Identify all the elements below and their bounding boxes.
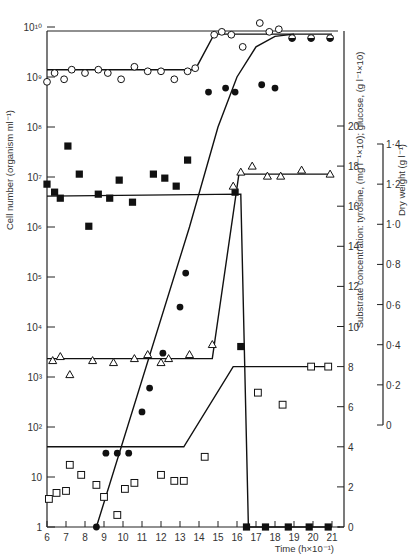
y-dry-weight-tick-label: 0·8 (386, 259, 401, 270)
x-tick-label: 6 (44, 532, 50, 543)
open-circle-point (239, 43, 246, 50)
y-substrate-tick-label: 2 (348, 482, 354, 493)
filled-square-point (95, 191, 102, 198)
filled-square-point (129, 199, 136, 206)
filled-circle-point (160, 350, 167, 357)
filled-square-point (57, 195, 64, 202)
filled-square-point (325, 523, 332, 530)
filled-circle-point (93, 524, 100, 531)
x-tick-label: 11 (137, 532, 148, 543)
y-left-tick-label: 1 (36, 522, 42, 533)
x-tick-label: 10 (117, 532, 129, 543)
y-dry-weight-axis-title: Dry weight (g l⁻¹) (396, 144, 407, 216)
open-triangle-point (89, 357, 97, 364)
y-left-tick-label: 10⁸ (27, 122, 42, 133)
open-circle-point (184, 68, 191, 75)
open-circle-point (61, 76, 68, 83)
y-left-tick-label: 10 (31, 472, 43, 483)
x-tick-label: 14 (193, 532, 205, 543)
y-dry-weight-tick-label: 0 (386, 420, 392, 431)
open-circle-point (95, 66, 102, 73)
filled-square-point (43, 181, 50, 188)
filled-circle-point (139, 409, 146, 416)
x-tick-label: 21 (326, 532, 338, 543)
open-square-point (255, 389, 262, 396)
filled-square-point (262, 523, 269, 530)
open-square-point (308, 363, 315, 370)
x-tick-label: 15 (212, 532, 224, 543)
open-circle-point (51, 70, 58, 77)
filled-circle-point (258, 81, 265, 88)
filled-square-point (306, 523, 313, 530)
filled-circle-point (232, 89, 239, 96)
open-triangle-point (229, 182, 237, 189)
y-substrate-tick-label: 0 (348, 522, 354, 533)
x-tick-label: 7 (63, 532, 69, 543)
open-square-point (53, 490, 60, 497)
filled-circle-point (272, 85, 279, 92)
x-tick-label: 13 (174, 532, 186, 543)
y-left-tick-label: 10¹⁰ (24, 22, 42, 33)
open-circle-point (256, 20, 263, 27)
filled-circle-point (114, 450, 121, 457)
open-triangle-point (277, 172, 285, 179)
open-square-point (201, 453, 208, 460)
axis-labels: 6789101112131415161718192021Time (h×10⁻¹… (4, 22, 407, 554)
fit-line (47, 367, 332, 447)
open-circle-point (192, 65, 199, 72)
open-square-point (78, 471, 85, 478)
open-triangle-point (110, 359, 118, 366)
open-circle-point (158, 68, 165, 75)
open-circle-point (131, 63, 138, 70)
filled-circle-point (125, 450, 132, 457)
open-square-point (180, 477, 187, 484)
x-tick-label: 18 (269, 532, 281, 543)
x-axis-title: Time (h×10⁻¹) (275, 543, 334, 554)
filled-square-point (184, 156, 191, 163)
filled-square-point (150, 171, 157, 178)
open-circle-point (275, 26, 282, 33)
y-left-axis-title: Cell number (organism ml⁻¹) (4, 110, 15, 230)
filled-circle-point (103, 450, 110, 457)
open-circle-point (218, 28, 225, 35)
open-triangle-point (66, 371, 74, 378)
y-substrate-tick-label: 4 (348, 442, 354, 453)
open-square-point (63, 488, 70, 495)
open-square-point (131, 479, 138, 486)
y-dry-weight-tick-label: 0·6 (386, 300, 401, 311)
open-circle-point (104, 70, 111, 77)
open-circle-point (171, 76, 178, 83)
x-tick-label: 17 (250, 532, 262, 543)
open-circle-point (144, 68, 151, 75)
chart-figure: 6789101112131415161718192021Time (h×10⁻¹… (0, 0, 419, 555)
fit-line (47, 174, 332, 358)
open-circle-point (266, 28, 273, 35)
y-left-tick-label: 10² (28, 422, 43, 433)
filled-square-point (116, 177, 123, 184)
filled-circle-point (146, 385, 153, 392)
y-left-tick-label: 10⁴ (27, 322, 42, 333)
open-square-point (325, 363, 332, 370)
open-triangle-point (298, 166, 306, 173)
x-tick-label: 12 (155, 532, 167, 543)
filled-circle-point (222, 85, 229, 92)
open-triangle-point (248, 162, 256, 169)
filled-square-point (64, 142, 71, 149)
y-left-tick-label: 10⁵ (27, 272, 42, 283)
open-triangle-point (237, 168, 245, 175)
open-square-point (279, 401, 286, 408)
open-circle-point (118, 76, 125, 83)
filled-square-point (106, 195, 113, 202)
filled-circle-point (182, 270, 189, 277)
open-square-point (114, 512, 121, 519)
filled-square-point (161, 175, 168, 182)
open-square-point (158, 471, 165, 478)
filled-square-point (85, 223, 92, 230)
x-tick-label: 9 (101, 532, 107, 543)
open-circle-point (68, 66, 75, 73)
y-substrate-tick-label: 8 (348, 362, 354, 373)
y-left-tick-label: 10³ (28, 372, 43, 383)
y-substrate-axis-title: Substrate concentration: tyrosine, (mg l… (354, 52, 365, 329)
open-triangle-point (49, 357, 57, 364)
filled-circle-point (205, 89, 212, 96)
